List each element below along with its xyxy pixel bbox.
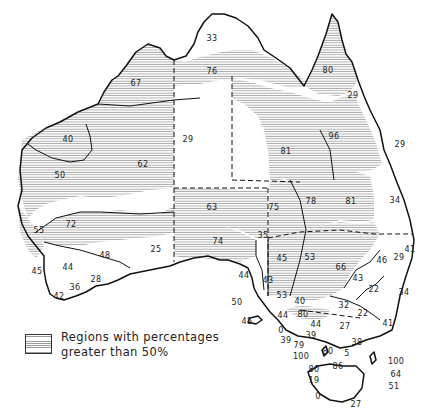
region-label: 39	[281, 337, 292, 345]
region-label: 76	[207, 68, 218, 76]
region-label: 19	[309, 377, 320, 385]
region-label: 22	[358, 310, 369, 318]
region-label: 29	[394, 254, 405, 262]
region-label: 29	[395, 141, 406, 149]
region-label: 75	[269, 204, 280, 212]
region-label: 66	[336, 264, 347, 272]
region-label: 36	[70, 284, 81, 292]
region-label: 43	[263, 277, 274, 285]
region-label: 40	[63, 136, 74, 144]
region-label: 45	[32, 268, 43, 276]
region-label: 79	[294, 342, 305, 350]
region-label: 27	[351, 401, 362, 409]
region-label: 27	[340, 323, 351, 331]
region-label: 44	[311, 321, 322, 329]
region-label: 41	[405, 246, 416, 254]
region-label: 100	[388, 358, 404, 366]
region-label: 39	[306, 332, 317, 340]
region-label: 38	[352, 339, 363, 347]
region-label: 25	[151, 246, 162, 254]
region-label: 62	[138, 161, 149, 169]
region-label: 80	[323, 348, 334, 356]
region-label: 96	[329, 133, 340, 141]
region-label: 34	[390, 197, 401, 205]
region-label: 80	[309, 366, 320, 374]
region-label: 48	[100, 252, 111, 260]
region-label: 0	[315, 393, 320, 401]
region-label: 81	[346, 198, 357, 206]
legend: Regions with percentages greater than 50…	[25, 330, 255, 366]
region-label: 29	[348, 92, 359, 100]
region-label: 46	[377, 257, 388, 265]
region-label: 44	[63, 264, 74, 272]
region-label: 53	[277, 292, 288, 300]
region-label: 72	[66, 221, 77, 229]
region-label: 32	[339, 302, 350, 310]
region-label: 40	[295, 298, 306, 306]
region-label: 42	[54, 293, 65, 301]
region-label: 64	[391, 371, 402, 379]
region-label: 44	[239, 272, 250, 280]
region-label: 34	[399, 289, 410, 297]
region-label: 74	[213, 238, 224, 246]
region-label: 51	[389, 383, 400, 391]
region-label: 22	[369, 286, 380, 294]
region-label: 81	[281, 148, 292, 156]
region-label: 45	[277, 255, 288, 263]
legend-line-2: greater than 50%	[61, 345, 219, 360]
region-label: 100	[293, 353, 309, 361]
region-label: 0	[278, 327, 283, 335]
region-label: 78	[306, 198, 317, 206]
hatch-swatch-icon	[25, 334, 52, 354]
region-label: 50	[55, 172, 66, 180]
region-label: 44	[278, 312, 289, 320]
region-label: 29	[183, 136, 194, 144]
region-label: 5	[344, 350, 349, 358]
region-label: 45	[242, 318, 253, 326]
region-label: 67	[131, 80, 142, 88]
region-label: 63	[207, 204, 218, 212]
region-label: 28	[91, 276, 102, 284]
region-label: 50	[232, 299, 243, 307]
region-label: 80	[323, 67, 334, 75]
hatched-regions	[18, 14, 382, 320]
region-label: 86	[333, 363, 344, 371]
legend-text: Regions with percentages greater than 50…	[61, 330, 219, 360]
region-label: 43	[353, 275, 364, 283]
region-label: 33	[207, 35, 218, 43]
region-label: 55	[34, 227, 45, 235]
region-label: 41	[383, 320, 394, 328]
region-label: 53	[305, 254, 316, 262]
region-label: 35	[258, 232, 269, 240]
region-label: 80	[298, 311, 309, 319]
legend-line-1: Regions with percentages	[61, 330, 219, 345]
